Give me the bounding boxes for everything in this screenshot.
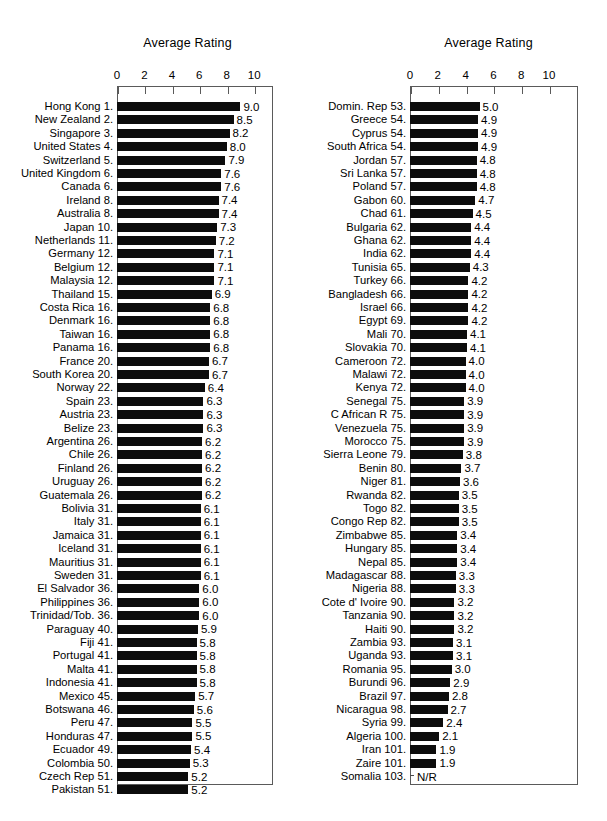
bar: [117, 477, 202, 486]
bar: [410, 370, 466, 379]
bar: [410, 437, 464, 446]
bar-category-label: Bolivia 31.: [61, 503, 113, 514]
bar-category-label: Czech Rep 51.: [39, 771, 113, 782]
bar: [117, 638, 197, 647]
bar-category-label: Spain 23.: [66, 396, 113, 407]
x-tick-mark-2: [145, 87, 146, 94]
bar: [117, 584, 199, 593]
bar-value-label: 4.0: [469, 355, 485, 367]
x-tick-label-0: 0: [114, 68, 120, 82]
bar-category-label: Greece 54.: [351, 114, 406, 125]
bar-row: Nepal 85.3.4: [304, 557, 607, 570]
bar-category-label: Rwanda 82.: [346, 490, 406, 501]
bar-row: Kenya 72.4.0: [304, 382, 607, 395]
x-tick-mark-6: [200, 87, 201, 94]
bar-row: Morocco 75.3.9: [304, 436, 607, 449]
bar: [117, 464, 202, 473]
bar-row: Portugal 41.5.8: [0, 650, 303, 663]
bar-row: Madagascar 88.3.3: [304, 570, 607, 583]
bar-value-label: 3.6: [463, 476, 479, 488]
bar-value-label: N/R: [417, 771, 437, 783]
bar-value-label: 3.5: [462, 503, 478, 515]
bar: [410, 343, 467, 352]
bar-row: Tanzania 90.3.2: [304, 610, 607, 623]
bar-row: Singapore 3.8.2: [0, 128, 303, 141]
bar-row: Iceland 31.6.1: [0, 543, 303, 556]
bar-row: Turkey 66.4.2: [304, 275, 607, 288]
bar: [117, 142, 227, 151]
x-tick-label-2: 2: [435, 68, 441, 82]
bar-category-label: Syria 99.: [362, 717, 406, 728]
bar-value-label: 6.7: [212, 369, 228, 381]
bar: [117, 209, 219, 218]
bar-category-label: Colombia 50.: [47, 758, 113, 769]
x-tick-mark-8: [522, 87, 523, 94]
bar-category-label: Nigeria 88.: [352, 583, 406, 594]
bar: [410, 651, 453, 660]
bar-row: Philippines 36.6.0: [0, 597, 303, 610]
bar-row: C African R 75.3.9: [304, 409, 607, 422]
bar: [410, 571, 456, 580]
bar: [410, 129, 478, 138]
bar: [410, 745, 436, 754]
chart-title-left: Average Rating: [0, 36, 303, 50]
bar-row: Malawi 72.4.0: [304, 369, 607, 382]
bar-category-label: Congo Rep 82.: [331, 516, 406, 527]
bar-value-label: 3.1: [456, 637, 472, 649]
bar-row: Bolivia 31.6.1: [0, 503, 303, 516]
bar: [117, 223, 217, 232]
x-tick-mark-4: [173, 87, 174, 94]
bar-value-label: 5.9: [201, 623, 217, 635]
bar-value-label: 5.4: [194, 744, 210, 756]
bar: [410, 638, 453, 647]
bar: [410, 477, 460, 486]
bar: [117, 718, 192, 727]
bar-row: Mauritius 31.6.1: [0, 557, 303, 570]
bar-row: Senegal 75.3.9: [304, 396, 607, 409]
bar: [410, 330, 467, 339]
bar-row: Algeria 100.2.1: [304, 731, 607, 744]
bar-value-label: 3.8: [466, 449, 482, 461]
bar-category-label: Togo 82.: [363, 503, 406, 514]
bar-row: Argentina 26.6.2: [0, 436, 303, 449]
bar-value-label: 9.0: [243, 101, 259, 113]
bar-row: United Kingdom 6.7.6: [0, 168, 303, 181]
bar-value-label: 6.2: [205, 449, 221, 461]
bar-value-label: 4.9: [481, 127, 497, 139]
bar-category-label: Ecuador 49.: [53, 744, 113, 755]
bar-row: Chile 26.6.2: [0, 449, 303, 462]
bar: [410, 196, 475, 205]
bar-category-label: Benin 80.: [359, 463, 406, 474]
bar-value-label: 4.8: [480, 181, 496, 193]
bar-value-label: 3.5: [462, 516, 478, 528]
bar-row: Niger 81.3.6: [304, 476, 607, 489]
bar: [117, 732, 192, 741]
bar: [410, 410, 464, 419]
x-tick-label-4: 4: [462, 68, 468, 82]
bar-row: Botswana 46.5.6: [0, 704, 303, 717]
bar: [117, 772, 188, 781]
bar-value-label: 6.4: [208, 382, 224, 394]
bar: [410, 625, 454, 634]
bar-value-label: 2.7: [451, 704, 467, 716]
bar: [410, 115, 478, 124]
bar-category-label: Ghana 62.: [354, 235, 406, 246]
bar-category-label: Brazil 97.: [359, 691, 406, 702]
bar-value-label: 8.5: [237, 114, 253, 126]
bar-category-label: Malawi 72.: [353, 369, 406, 380]
bar-row: Ecuador 49.5.4: [0, 744, 303, 757]
bar-row: Paraguay 40.5.9: [0, 624, 303, 637]
bar-row: Congo Rep 82.3.5: [304, 516, 607, 529]
bar-value-label: 4.2: [471, 315, 487, 327]
bar-category-label: Thailand 15.: [51, 289, 113, 300]
bar-row: Slovakia 70.4.1: [304, 342, 607, 355]
bar: [117, 303, 210, 312]
bar: [117, 102, 240, 111]
bar: [117, 397, 203, 406]
bar-value-label: 8.0: [230, 141, 246, 153]
bar-value-label: 3.2: [457, 610, 473, 622]
bar-value-label: 4.2: [471, 288, 487, 300]
bar: [117, 611, 199, 620]
bar-category-label: Domin. Rep 53.: [328, 101, 406, 112]
bar-row: Poland 57.4.8: [304, 181, 607, 194]
